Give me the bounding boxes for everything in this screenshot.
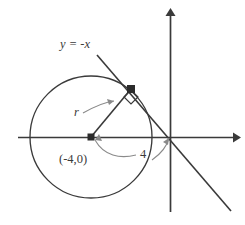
radius-label: r xyxy=(74,105,79,119)
figure-background xyxy=(0,0,245,225)
geometry-figure: y = -x r (-4,0) 4 xyxy=(0,0,245,225)
center-coordinates-label: (-4,0) xyxy=(59,152,87,166)
center-point-marker xyxy=(88,134,95,141)
line-equation-label: y = -x xyxy=(58,37,90,51)
distance-label: 4 xyxy=(140,147,147,161)
tangency-point-marker xyxy=(127,85,135,93)
geometry-canvas: y = -x r (-4,0) 4 xyxy=(0,0,245,225)
